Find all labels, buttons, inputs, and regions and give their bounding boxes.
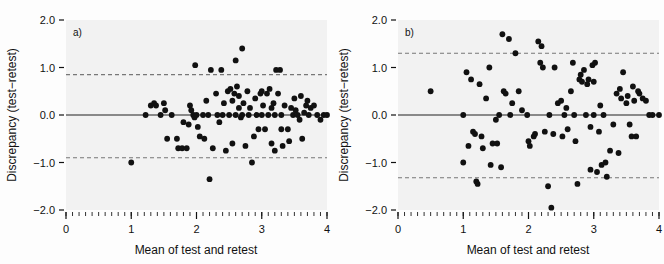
data-point xyxy=(260,103,266,109)
y-tick-label: 2.0 xyxy=(40,14,55,26)
data-point xyxy=(591,112,597,118)
data-point xyxy=(539,43,545,49)
data-point xyxy=(228,86,234,92)
data-point xyxy=(271,100,277,106)
data-point xyxy=(496,112,502,118)
data-point xyxy=(625,93,631,99)
y-tick-label: −1.0 xyxy=(365,157,387,169)
data-point xyxy=(460,112,466,118)
y-axis-title-b: Discrepancy (test−retest) xyxy=(337,48,351,182)
data-point xyxy=(581,67,587,73)
data-point xyxy=(267,86,273,92)
data-point xyxy=(236,105,242,111)
data-point xyxy=(475,181,481,187)
data-point xyxy=(169,112,175,118)
data-point xyxy=(256,126,262,132)
data-point xyxy=(186,122,192,128)
data-point xyxy=(251,133,257,139)
x-axis-title-b: Mean of test and retest xyxy=(467,243,590,257)
data-point xyxy=(244,88,250,94)
data-point xyxy=(464,69,470,75)
y-axis-title-a: Discrepancy (test−retest) xyxy=(5,48,19,182)
data-point xyxy=(162,107,168,113)
data-point xyxy=(239,112,245,118)
data-point xyxy=(573,138,579,144)
data-point xyxy=(286,138,292,144)
panel-a-svg: 01234−2.0−1.00.01.02.0 a) Mean of test a… xyxy=(0,0,332,264)
data-point xyxy=(535,38,541,44)
data-point xyxy=(631,98,637,104)
data-point xyxy=(575,181,581,187)
x-tick-label: 2 xyxy=(193,223,199,235)
x-axis-title-a: Mean of test and retest xyxy=(135,243,258,257)
data-point xyxy=(233,57,239,63)
data-point xyxy=(516,88,522,94)
data-point xyxy=(527,143,533,149)
data-point xyxy=(213,91,219,97)
data-point xyxy=(306,112,312,118)
data-point xyxy=(579,79,585,85)
data-point xyxy=(604,174,610,180)
data-point xyxy=(586,76,592,82)
data-point xyxy=(254,112,260,118)
data-point xyxy=(234,84,240,90)
x-tick-label: 0 xyxy=(395,223,401,235)
data-point xyxy=(513,50,519,56)
data-point xyxy=(297,117,303,123)
data-point xyxy=(214,112,220,118)
data-point xyxy=(571,112,577,118)
data-point xyxy=(259,112,265,118)
data-point xyxy=(503,91,509,97)
data-point xyxy=(468,76,474,82)
data-point xyxy=(588,167,594,173)
data-point xyxy=(291,95,297,101)
x-tick-label: 2 xyxy=(525,223,531,235)
data-point xyxy=(298,93,304,99)
data-point xyxy=(272,148,278,154)
data-point xyxy=(275,91,281,97)
data-point xyxy=(532,131,538,137)
data-point xyxy=(643,98,649,104)
data-point xyxy=(262,126,268,132)
data-point xyxy=(158,112,164,118)
data-point xyxy=(259,88,265,94)
data-point xyxy=(460,160,466,166)
data-point xyxy=(548,205,554,211)
data-point xyxy=(494,141,500,147)
data-point xyxy=(181,119,187,125)
y-tick-label: 1.0 xyxy=(40,62,55,74)
data-point xyxy=(558,98,564,104)
x-tick-label: 4 xyxy=(656,223,662,235)
data-point xyxy=(428,88,434,94)
data-point xyxy=(192,62,198,68)
data-point xyxy=(597,103,603,109)
data-point xyxy=(207,176,213,182)
data-point xyxy=(563,105,569,111)
data-point xyxy=(627,122,633,128)
data-point xyxy=(542,129,548,135)
data-point xyxy=(565,126,571,132)
data-point xyxy=(552,65,558,71)
panel-a: 01234−2.0−1.00.01.02.0 a) Mean of test a… xyxy=(0,0,332,264)
data-point xyxy=(633,133,639,139)
data-point xyxy=(650,112,656,118)
data-point xyxy=(280,143,286,149)
x-tick-label: 3 xyxy=(591,223,597,235)
data-point xyxy=(479,133,485,139)
data-point xyxy=(161,100,167,106)
data-point xyxy=(610,122,616,128)
data-point xyxy=(483,95,489,101)
data-point xyxy=(305,98,311,104)
data-point xyxy=(588,124,594,130)
data-point xyxy=(220,112,226,118)
data-point xyxy=(153,103,159,109)
x-tick-label: 0 xyxy=(63,223,69,235)
data-point xyxy=(630,84,636,90)
data-point xyxy=(241,100,247,106)
data-point xyxy=(620,69,626,75)
data-point xyxy=(194,112,200,118)
y-tick-label: 0.0 xyxy=(40,109,55,121)
data-point xyxy=(561,112,567,118)
data-point xyxy=(568,88,574,94)
data-point xyxy=(216,119,222,125)
